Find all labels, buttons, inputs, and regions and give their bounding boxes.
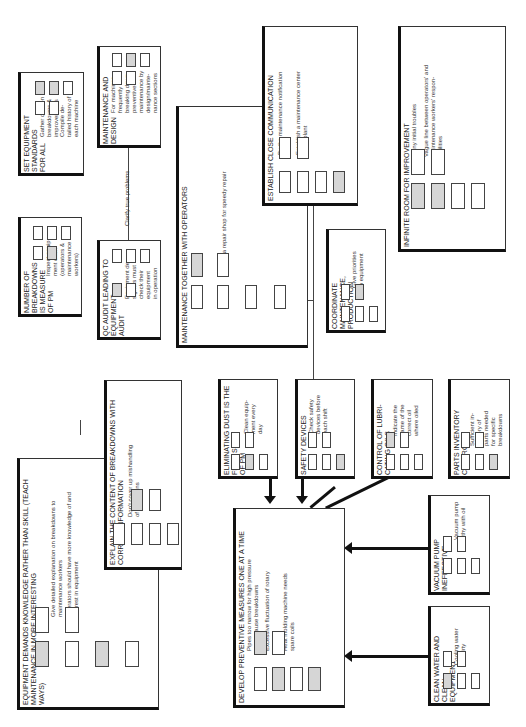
- panel-vacuum: VACUUM PUMP INEFFECTIVE Vacuum pump filt…: [428, 495, 490, 595]
- checkbox-square-filled: [95, 641, 109, 667]
- checkbox-square: [461, 432, 470, 448]
- checkbox-square: [341, 306, 350, 322]
- checkbox-square: [167, 523, 179, 545]
- checkbox-square: [297, 171, 309, 193]
- panel-qc-audit: QC AUDIT LEADING TO EQUIPMENT AUDIT Equi…: [97, 240, 161, 340]
- checkbox-square: [315, 171, 327, 193]
- checkbox-square: [259, 454, 268, 470]
- panel-title: MAINTENANCE TOGETHER WITH OPERATORS: [181, 111, 189, 343]
- checkbox-square-filled: [35, 641, 49, 667]
- checkbox-square: [140, 53, 150, 67]
- checkbox-square: [411, 149, 425, 175]
- checkbox-square-filled: [47, 246, 57, 260]
- checkbox-square: [457, 558, 466, 574]
- panel-note: Vacuum pump filthy with oil: [453, 502, 467, 540]
- checkbox-square: [451, 183, 465, 209]
- checkbox-square: [33, 246, 43, 260]
- checkbox-square: [61, 226, 71, 240]
- checkbox-square: [355, 306, 364, 322]
- checkbox-square: [112, 71, 122, 85]
- panel-explain-content: EXPLAIN THE CONTENT OF BREAKDOWNS WITH C…: [104, 380, 182, 570]
- connector-explain-knowledge: [80, 420, 81, 435]
- panel-note: Give detailed explanation on breakdowns …: [50, 501, 64, 617]
- panel-title: SAFETY DEVICES: [300, 383, 308, 475]
- panel-note: Vague line between operators' and mainte…: [423, 65, 444, 157]
- arrow-parts-to-preventive: [325, 476, 389, 509]
- checkbox-square: [386, 454, 395, 470]
- checkbox-square: [279, 137, 291, 159]
- checkbox-square: [443, 651, 452, 667]
- checkbox-square: [65, 607, 79, 633]
- checkbox-square: [35, 101, 45, 115]
- checkbox-square: [290, 667, 303, 691]
- checkbox-square: [245, 432, 254, 448]
- arrow-dust-to-preventive: [269, 478, 272, 498]
- arrow-safety-to-preventive: [301, 478, 304, 498]
- panel-note: Operators should have more knowledge of …: [66, 492, 80, 617]
- checkbox-square: [63, 81, 73, 95]
- panel-note: Clean equip- ment every day: [243, 400, 264, 434]
- checkbox-square: [443, 558, 452, 574]
- arrowhead-icon: [296, 496, 308, 504]
- checkbox-square-filled: [333, 171, 345, 193]
- checkbox-square: [47, 226, 57, 240]
- checkbox-square: [369, 306, 378, 322]
- checkbox-square: [322, 454, 331, 470]
- checkbox-square: [461, 454, 470, 470]
- panel-coordinate: COORDINATE MAINTENANCE, PRODUCTION Give …: [326, 229, 386, 333]
- panel-safety: SAFETY DEVICES Check safety devices befo…: [295, 379, 355, 479]
- checkbox-square: [279, 171, 291, 193]
- checkbox-square: [125, 641, 139, 667]
- checkbox-square: [65, 641, 79, 667]
- checkbox-square: [112, 53, 122, 67]
- checkbox-square: [131, 523, 143, 545]
- panel-maintenance-design: MAINTENANCE AND DESIGN For machines freq…: [97, 46, 161, 148]
- checkbox-square-filled: [245, 454, 254, 470]
- panel-note: Check safety devices before each shift: [308, 395, 329, 434]
- panel-title: ESTABLISH CLOSE COMMUNICATION: [267, 31, 275, 201]
- checkbox-square: [140, 249, 150, 263]
- panel-title: INFINITE ROOM FOR IMPROVEMENT: [403, 31, 411, 247]
- checkbox-square-filled: [191, 253, 203, 277]
- checkbox-square: [431, 149, 445, 175]
- checkbox-square: [254, 667, 267, 691]
- checkbox-square: [149, 523, 161, 545]
- checkbox-square: [471, 183, 485, 209]
- arrowhead-icon: [264, 496, 276, 504]
- checkbox-square-filled: [489, 454, 498, 470]
- panel-title: EQUIPMENT DEMANDS KNOWLEDGE RATHER THAN …: [22, 463, 46, 705]
- checkbox-square: [457, 651, 466, 667]
- checkbox-square: [308, 454, 317, 470]
- arrow-vacuum-to-preventive: [350, 547, 430, 550]
- checkbox-square: [191, 285, 203, 309]
- panel-breakdowns-measure: NUMBER OF BREAKDOWNS IS MEASURE OF PM In…: [18, 217, 82, 317]
- checkbox-square: [217, 285, 229, 309]
- checkbox-square-filled: [254, 631, 267, 655]
- checkbox-square: [414, 454, 423, 470]
- checkbox-square-filled: [112, 283, 122, 297]
- checkbox-square: [471, 558, 480, 574]
- panel-note: Give priorities to equipment: [351, 251, 365, 288]
- panel-infinite-room: INFINITE ROOM FOR IMPROVEMENT Many initi…: [398, 26, 506, 252]
- checkbox-square: [126, 71, 136, 85]
- checkbox-square: [274, 285, 286, 309]
- checkbox-square: [49, 101, 59, 115]
- checkbox-square-filled: [49, 81, 59, 95]
- panel-title: DEVELOP PREVENTIVE MEASURES ONE AT A TIM…: [238, 513, 246, 703]
- panel-parts-inventory: PARTS INVENTORY CONTROL Sufficient in- v…: [448, 379, 510, 479]
- checkbox-square-filled: [35, 81, 45, 95]
- checkbox-square: [231, 454, 240, 470]
- checkbox-square: [475, 454, 484, 470]
- checkbox-square: [231, 432, 240, 448]
- connector-label-clarify: Clarify true problems: [124, 171, 130, 226]
- checkbox-square: [457, 536, 466, 552]
- checkbox-square: [471, 673, 480, 689]
- checkbox-square-filled: [336, 454, 345, 470]
- checkbox-square: [126, 249, 136, 263]
- checkbox-square: [245, 285, 257, 309]
- panel-clean-water: CLEAN WATER AND CLEAN EQUIPMENT Cooling …: [428, 606, 490, 706]
- checkbox-square: [272, 631, 285, 655]
- checkbox-square-filled: [126, 53, 136, 67]
- checkbox-square: [308, 432, 317, 448]
- checkbox-square-filled: [131, 489, 143, 511]
